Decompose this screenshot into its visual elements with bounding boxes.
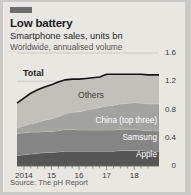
y-axis-tick-label: 0.4 bbox=[162, 133, 176, 142]
x-axis-ticks bbox=[24, 166, 148, 170]
y-axis-tick-label: 1.6 bbox=[162, 48, 176, 57]
x-axis-tick-label: 17 bbox=[94, 171, 120, 180]
y-axis-tick-label: 0.8 bbox=[162, 105, 176, 114]
y-axis-tick-label: 0 bbox=[162, 161, 176, 170]
x-axis-tick-label: 18 bbox=[121, 171, 147, 180]
series-label-china: China (top three) bbox=[96, 116, 157, 125]
series-label-apple: Apple bbox=[136, 150, 157, 159]
y-axis-tick-label: 1.2 bbox=[162, 76, 176, 85]
source-note: Source: The pH Report bbox=[10, 178, 88, 187]
series-label-samsung: Samsung bbox=[122, 133, 157, 142]
series-label-total: Total bbox=[23, 68, 44, 78]
chart-card: Low battery Smartphone sales, units bn W… bbox=[3, 2, 185, 192]
series-label-others: Others bbox=[78, 90, 104, 100]
